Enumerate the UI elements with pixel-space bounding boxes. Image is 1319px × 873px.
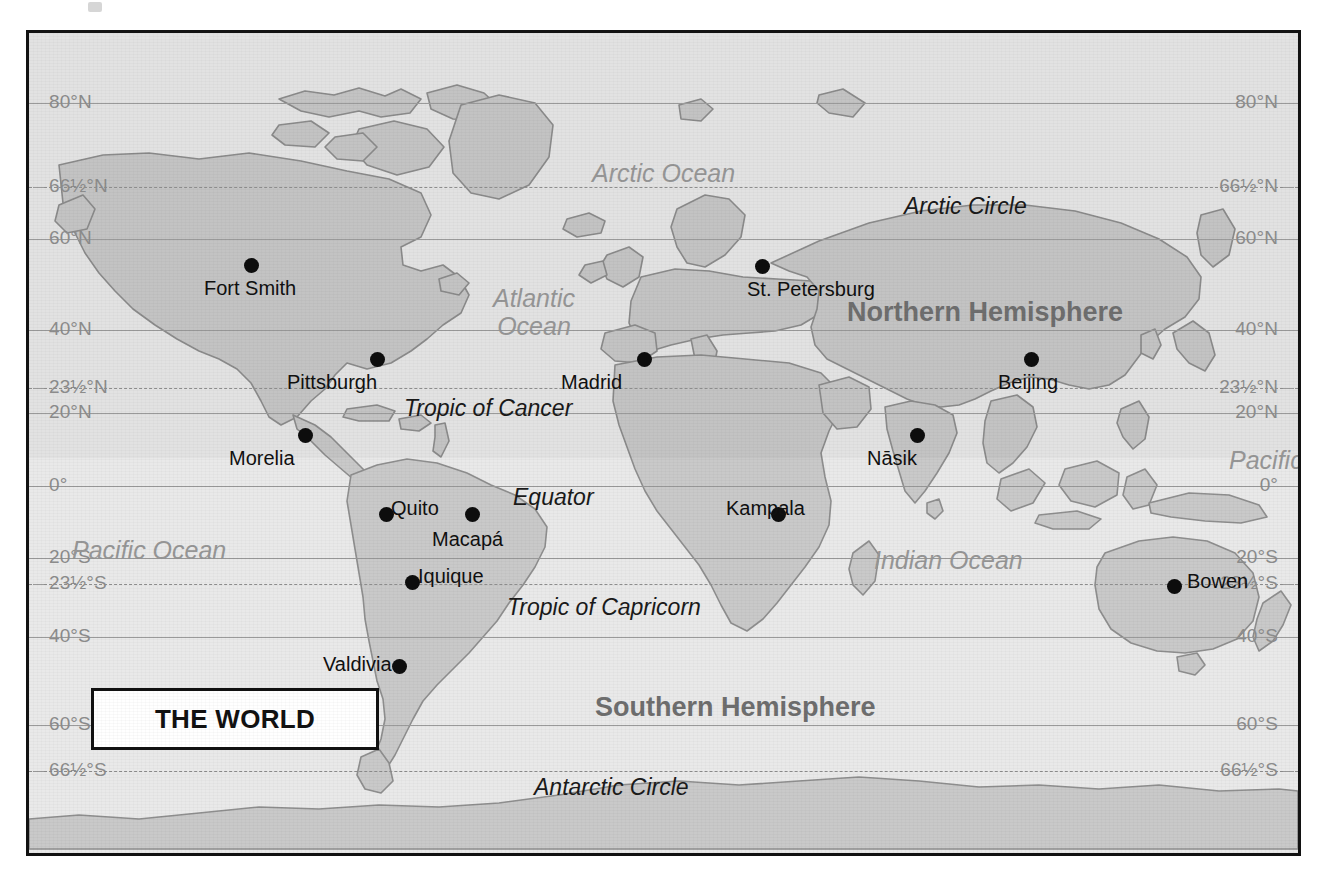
latitude-line-80 [29,103,1298,104]
latitude-label-right-23.5: 23½°N [1219,376,1278,398]
map-frame: 80°N80°N66½°N66½°N60°N60°N40°N40°N23½°N2… [26,30,1301,856]
land-ireland [579,261,607,283]
latitude-tick-right-0 [1283,486,1294,487]
city-label-kampala: Kampala [726,497,805,520]
latitude-tick-left--40 [33,637,44,638]
latitude-tick-left-80 [33,103,44,104]
latitude-label-right-0: 0° [1260,474,1278,496]
latitude-tick-right--66.5 [1283,771,1294,772]
city-label-st-petersburg: St. Petersburg [747,278,875,301]
latitude-label-right--20: 20°S [1236,546,1278,568]
land-australia [1095,537,1259,653]
latitude-line-20 [29,413,1298,414]
city-dot-morelia[interactable] [298,428,313,443]
land-british-isles [601,247,643,287]
land-iceland [563,213,605,237]
city-dot-madrid[interactable] [637,352,652,367]
map-title-box: THE WORLD [91,688,379,750]
city-label-pittsburgh: Pittsburgh [287,371,377,394]
ocean-label-pacific-ocean-2: Pacific Ocean [1229,446,1301,474]
latitude-label-right-66.5: 66½°N [1219,175,1278,197]
city-label-fort-smith: Fort Smith [204,277,296,300]
land-new-guinea [1149,493,1267,523]
latitude-label-right--60: 60°S [1236,713,1278,735]
latitude-tick-left-66.5 [33,187,44,188]
latitude-line-66.5 [29,187,1298,188]
city-label-n-sik: Nāsik [867,447,917,470]
city-dot-valdivia[interactable] [392,659,407,674]
latitude-tick-left--66.5 [33,771,44,772]
latitude-label-left-23.5: 23½°N [49,376,108,398]
land-greenland [449,95,553,199]
latitude-line-60 [29,239,1298,240]
latitude-tick-right-80 [1283,103,1294,104]
latitude-tick-right-20 [1283,413,1294,414]
latitude-tick-left-40 [33,330,44,331]
line-label-tropic-of-capricorn: Tropic of Capricorn [507,594,701,621]
land-kamchatka [1197,209,1235,267]
latitude-tick-right-60 [1283,239,1294,240]
ocean-label-indian-ocean-4: Indian Ocean [874,546,1023,574]
latitude-tick-right-40 [1283,330,1294,331]
latitude-tick-left-20 [33,413,44,414]
land-scandinavia [671,195,745,267]
map-canvas: 80°N80°N66½°N66½°N60°N60°N40°N40°N23½°N2… [29,33,1298,853]
latitude-label-left--23.5: 23½°S [49,572,107,594]
city-dot-st-petersburg[interactable] [755,259,770,274]
latitude-tick-right--40 [1283,637,1294,638]
latitude-label-left-40: 40°N [49,318,92,340]
latitude-line-0 [29,486,1298,487]
city-label-macap: Macapá [432,528,503,551]
latitude-tick-left--20 [33,558,44,559]
world-map-page: 80°N80°N66½°N66½°N60°N60°N40°N40°N23½°N2… [0,0,1319,873]
latitude-label-left--66.5: 66½°S [49,759,107,781]
line-label-arctic-circle: Arctic Circle [904,193,1027,220]
latitude-tick-left-23.5 [33,388,44,389]
latitude-tick-left-0 [33,486,44,487]
latitude-label-left--40: 40°S [49,625,91,647]
land-tasmania [1177,653,1205,675]
latitude-tick-right--23.5 [1283,584,1294,585]
city-dot-n-sik[interactable] [910,428,925,443]
city-label-iquique: Iquique [418,565,484,588]
latitude-label-right-40: 40°N [1235,318,1278,340]
paper-edge-artifact [88,2,102,12]
land-japan [1173,321,1215,371]
land-sumatra [997,469,1045,511]
hemisphere-label-northern-hemisphere: Northern Hemisphere [847,297,1123,328]
latitude-label-right--66.5: 66½°S [1220,759,1278,781]
latitude-tick-right-66.5 [1283,187,1294,188]
latitude-line--23.5 [29,584,1298,585]
city-label-quito: Quito [391,497,439,520]
land-sri-lanka [927,499,943,519]
hemisphere-label-southern-hemisphere: Southern Hemisphere [595,692,876,723]
latitude-label-left-20: 20°N [49,401,92,423]
land-lesser-antilles [433,423,449,457]
ocean-label-arctic-ocean-0: Arctic Ocean [592,159,735,187]
latitude-tick-right-23.5 [1283,388,1294,389]
city-label-morelia: Morelia [229,447,295,470]
city-dot-beijing[interactable] [1024,352,1039,367]
city-dot-fort-smith[interactable] [244,258,259,273]
land-africa [613,355,839,631]
latitude-line-23.5 [29,388,1298,389]
line-label-tropic-of-cancer: Tropic of Cancer [404,395,572,422]
ocean-label-atlantic-ocean-1: Atlantic Ocean [493,284,575,340]
latitude-label-left-80: 80°N [49,91,92,113]
line-label-antarctic-circle: Antarctic Circle [534,774,689,801]
latitude-line--40 [29,637,1298,638]
latitude-label-right-20: 20°N [1235,401,1278,423]
latitude-label-right-60: 60°N [1235,227,1278,249]
land-java [1035,511,1101,529]
latitude-tick-left-60 [33,239,44,240]
land-banks [272,121,329,147]
city-label-valdivia: Valdivia [323,653,392,676]
land-philippines [1117,401,1149,449]
city-dot-macap[interactable] [465,507,480,522]
city-dot-pittsburgh[interactable] [370,352,385,367]
city-label-madrid: Madrid [561,371,622,394]
city-label-beijing: Beijing [998,371,1058,394]
map-title: THE WORLD [155,704,315,735]
city-dot-bowen[interactable] [1167,579,1182,594]
line-label-equator: Equator [513,484,594,511]
